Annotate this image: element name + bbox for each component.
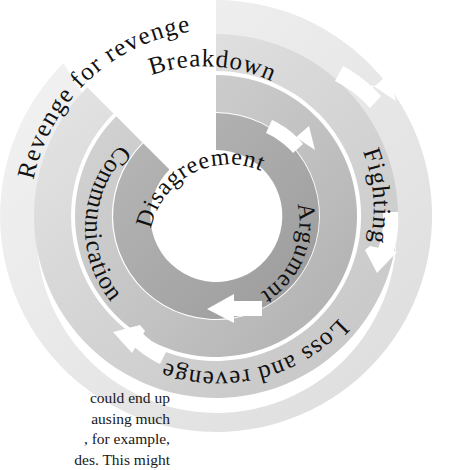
body-text-line: could end up — [0, 388, 170, 409]
spiral-diagram-page: Revenge for revenge Breakdown Fighting L… — [0, 0, 455, 470]
body-text-line: des. This might — [0, 450, 170, 470]
page-body-text: could end up ausing much , for example, … — [0, 388, 170, 470]
body-text-line: ausing much — [0, 409, 170, 430]
body-text-line: , for example, — [0, 429, 170, 450]
